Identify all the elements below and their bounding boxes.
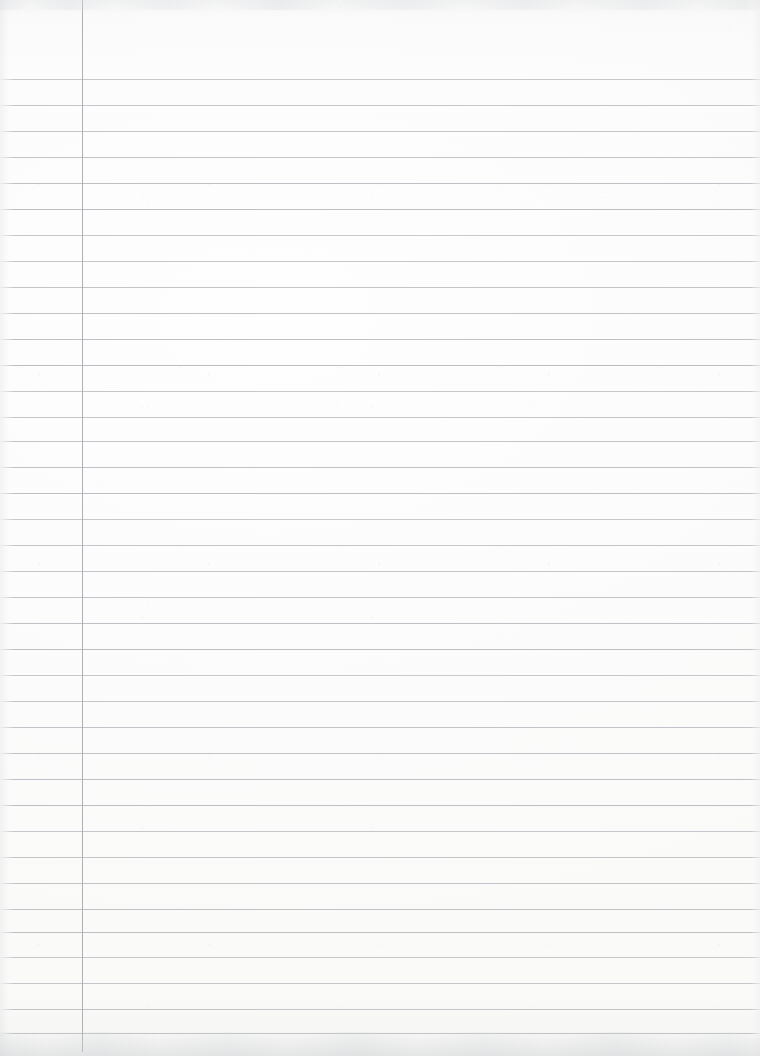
header-area <box>0 0 760 79</box>
notebook-page <box>0 0 760 1056</box>
left-margin-column <box>0 79 82 1056</box>
writing-area <box>83 79 760 1056</box>
